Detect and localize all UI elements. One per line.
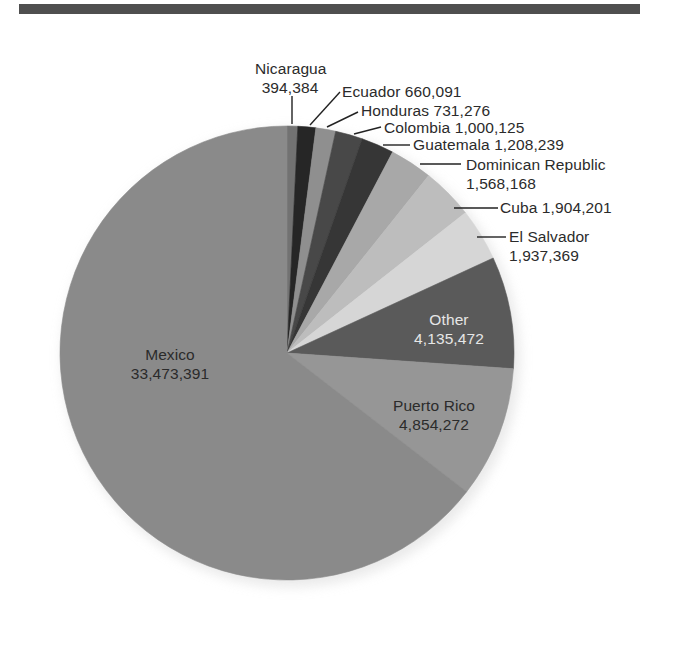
label-el-salvador-name: El Salvador [509,227,589,246]
label-puerto-rico-value: 4,854,272 [384,415,484,434]
label-mexico-value: 33,473,391 [115,364,225,383]
label-puerto-rico-name: Puerto Rico [384,396,484,415]
label-other: Other 4,135,472 [397,310,501,348]
label-nicaragua-name: Nicaragua [255,59,325,78]
label-nicaragua-value: 394,384 [255,78,325,97]
leader-honduras [327,112,358,127]
pie-chart [0,0,674,651]
label-cuba: Cuba 1,904,201 [500,198,612,217]
label-guatemala: Guatemala 1,208,239 [413,135,564,154]
label-dominican-republic-value: 1,568,168 [466,174,606,193]
label-other-value: 4,135,472 [397,329,501,348]
label-mexico-name: Mexico [115,345,225,364]
label-dominican-republic-name: Dominican Republic [466,155,606,174]
leader-colombia [354,127,381,134]
label-el-salvador: El Salvador 1,937,369 [509,227,589,265]
label-ecuador: Ecuador 660,091 [342,82,462,101]
label-mexico: Mexico 33,473,391 [115,345,225,383]
label-puerto-rico: Puerto Rico 4,854,272 [384,396,484,434]
label-el-salvador-value: 1,937,369 [509,246,589,265]
label-nicaragua: Nicaragua 394,384 [255,59,325,97]
label-dominican-republic: Dominican Republic 1,568,168 [466,155,606,193]
label-other-name: Other [397,310,501,329]
